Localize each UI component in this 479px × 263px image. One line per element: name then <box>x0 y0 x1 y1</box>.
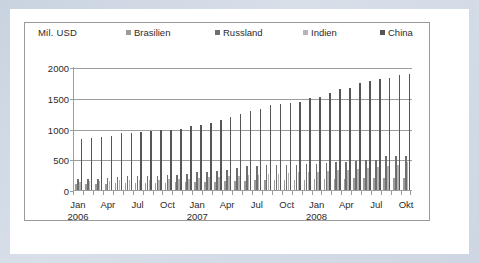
x-tick-mark <box>242 191 243 195</box>
x-tick-mark <box>182 191 183 195</box>
bar-group <box>382 67 392 190</box>
legend-swatch-russland <box>215 30 220 35</box>
bar-china <box>379 79 381 190</box>
x-tick-mark <box>391 191 392 195</box>
x-tick-month: Jul <box>251 199 263 210</box>
bar-group <box>154 67 164 190</box>
legend-item-russland[interactable]: Russland <box>215 27 263 38</box>
x-tick-mark <box>232 191 233 195</box>
bar-china <box>150 131 152 190</box>
x-tick-label: Jan2008 <box>306 199 327 223</box>
x-tick-cell <box>361 191 371 195</box>
bar-china <box>270 105 272 190</box>
x-tick-label: Jul <box>370 199 382 211</box>
bar-group <box>263 67 273 190</box>
x-tick-cell <box>192 191 202 195</box>
x-tick-cell <box>312 191 322 195</box>
x-tick-label: Apr <box>339 199 354 211</box>
bar-china <box>309 98 311 190</box>
bar-china <box>240 114 242 190</box>
x-tick-month: Oct <box>160 199 175 210</box>
bar-group <box>84 67 94 190</box>
bar-group <box>283 67 293 190</box>
x-tick-mark <box>192 191 193 195</box>
bar-china <box>339 89 341 190</box>
x-tick-cell <box>93 191 103 195</box>
bar-group <box>144 67 154 190</box>
x-tick-cell <box>351 191 361 195</box>
x-tick-mark <box>321 191 322 195</box>
x-tick-mark <box>302 191 303 195</box>
x-tick-mark <box>282 191 283 195</box>
x-tick-cell <box>401 191 411 195</box>
x-tick-year: 2008 <box>306 211 327 223</box>
x-tick-label: Oct <box>160 199 175 211</box>
legend-label-china: China <box>388 27 413 38</box>
x-tick-month: Jan <box>309 199 324 210</box>
bar-china <box>81 139 83 190</box>
bar-group <box>303 67 313 190</box>
bar-group <box>173 67 183 190</box>
bar-group <box>402 67 412 190</box>
legend-label-brasilien: Brasilien <box>134 27 170 38</box>
bar-china <box>290 103 292 190</box>
legend-label-russland: Russland <box>223 27 263 38</box>
x-tick-cell <box>182 191 192 195</box>
x-tick-month: Jul <box>132 199 144 210</box>
bar-group <box>183 67 193 190</box>
legend-item-china[interactable]: China <box>380 27 413 38</box>
bar-group <box>352 67 362 190</box>
bar-group <box>114 67 124 190</box>
bar-group <box>203 67 213 190</box>
x-tick-mark <box>123 191 124 195</box>
bar-china <box>200 125 202 190</box>
bar-group <box>104 67 114 190</box>
x-tick-cell <box>153 191 163 195</box>
bar-group <box>94 67 104 190</box>
x-tick-cell <box>162 191 172 195</box>
x-tick-mark <box>133 191 134 195</box>
x-tick-mark <box>381 191 382 195</box>
legend-swatch-china <box>380 30 385 35</box>
bar-china <box>91 138 93 190</box>
legend-item-indien[interactable]: Indien <box>303 27 337 38</box>
bar-china <box>170 130 172 190</box>
bar-china <box>260 109 262 190</box>
legend-label-indien: Indien <box>311 27 337 38</box>
bars-layer <box>74 67 412 190</box>
x-tick-mark <box>341 191 342 195</box>
x-tick-cell <box>391 191 401 195</box>
x-tick-cell <box>123 191 133 195</box>
y-tick-label: 1000 <box>48 124 69 135</box>
bar-china <box>180 129 182 191</box>
bar-china <box>349 88 351 190</box>
x-tick-label: Jan2007 <box>187 199 208 223</box>
bar-group <box>74 67 84 190</box>
bar-china <box>329 93 331 190</box>
x-tick-cell <box>262 191 272 195</box>
plot-area <box>73 67 412 191</box>
x-tick-mark <box>202 191 203 195</box>
x-tick-month: Apr <box>339 199 354 210</box>
x-tick-mark <box>212 191 213 195</box>
x-tick-month: Oct <box>279 199 294 210</box>
x-tick-cell <box>73 191 83 195</box>
y-tick-label: 2000 <box>48 63 69 74</box>
bar-group <box>293 67 303 190</box>
legend-item-brasilien[interactable]: Brasilien <box>126 27 170 38</box>
legend-swatch-indien <box>303 30 308 35</box>
x-tick-cell <box>83 191 93 195</box>
x-tick-mark <box>222 191 223 195</box>
y-tick-label: 1500 <box>48 93 69 104</box>
x-tick-mark <box>103 191 104 195</box>
x-tick-label: Apr <box>100 199 115 211</box>
x-tick-month: Apr <box>100 199 115 210</box>
x-tick-cell <box>103 191 113 195</box>
bar-china <box>220 120 222 190</box>
bar-group <box>134 67 144 190</box>
x-tick-year: 2006 <box>67 211 88 223</box>
x-tick-year: 2007 <box>187 211 208 223</box>
bar-china <box>399 75 401 190</box>
x-tick-mark <box>73 191 74 195</box>
bar-group <box>372 67 382 190</box>
